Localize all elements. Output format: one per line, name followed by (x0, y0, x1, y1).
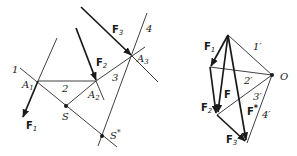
label-ray-2: 2′ (243, 75, 253, 86)
vector-resultant-f (218, 35, 228, 112)
label-line-4: 4 (145, 23, 152, 34)
label-vector-f2: F2 (201, 102, 213, 115)
label-line-3: 3 (112, 72, 118, 83)
funicular-polygon: 1 2 3 4 A1 A2 A3 S S* F1 F2 F3 (12, 7, 158, 147)
label-vector-f3: F3 (226, 134, 237, 147)
point-s (64, 104, 68, 108)
label-f3: F3 (112, 24, 123, 37)
label-ray-3: 3′ (253, 91, 262, 102)
action-line-f1 (38, 38, 57, 81)
point-s-star (100, 134, 104, 138)
pole-o (270, 73, 274, 77)
label-vector-f1: F1 (204, 41, 215, 54)
force-polygon: 1′ 2′ 3′ 4′ O F1 F2 F3 F F* (201, 35, 288, 147)
label-ray-4: 4′ (261, 109, 271, 120)
label-f2: F2 (96, 57, 108, 70)
vector-resultant-f-star (228, 35, 246, 140)
force-diagram: 1 2 3 4 A1 A2 A3 S S* F1 F2 F3 1′ 2′ 3′ … (0, 0, 297, 156)
label-resultant-f: F (224, 89, 231, 100)
label-a1: A1 (21, 79, 34, 92)
label-a2: A2 (87, 89, 100, 102)
label-line-1: 1 (12, 64, 18, 75)
label-s: S (62, 111, 69, 122)
label-line-2: 2 (61, 83, 68, 94)
ray-2 (210, 67, 272, 75)
label-s-star: S* (110, 128, 121, 141)
force-arrow-f2 (76, 28, 96, 80)
label-pole-o: O (280, 71, 288, 82)
force-arrow-f3 (81, 7, 131, 55)
label-a3: A3 (136, 53, 149, 66)
label-ray-1: 1′ (253, 41, 262, 52)
label-f1: F1 (26, 120, 37, 133)
